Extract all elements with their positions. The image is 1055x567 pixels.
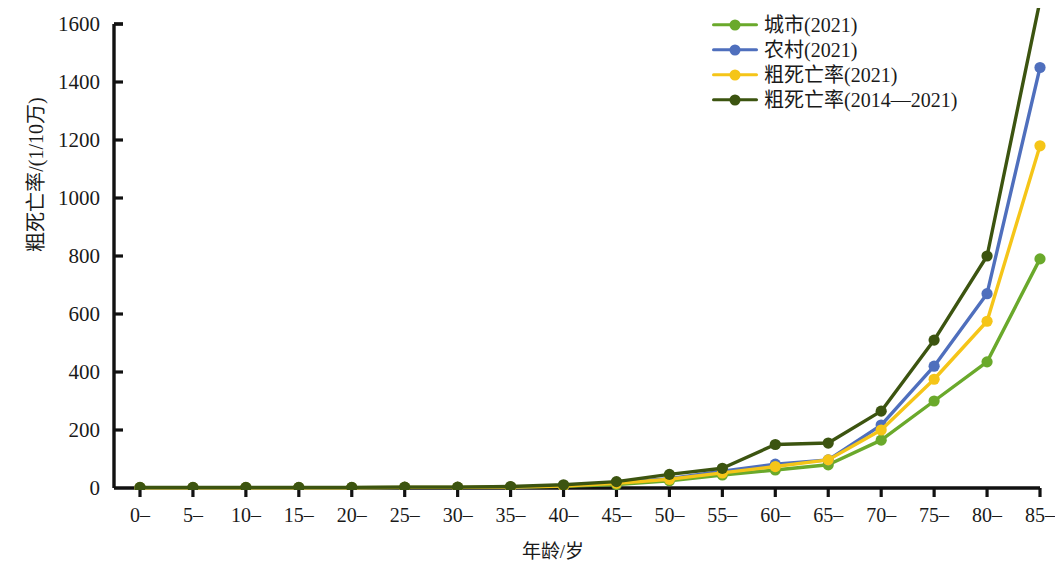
series-line <box>140 146 1040 488</box>
data-point-marker <box>876 424 887 435</box>
legend-item-label: 粗死亡率(2021) <box>764 65 897 85</box>
data-point-marker <box>929 395 940 406</box>
legend-item-label: 城市(2021) <box>764 15 857 35</box>
legend-item-label: 农村(2021) <box>764 40 857 60</box>
data-point-marker <box>770 439 781 450</box>
data-point-marker <box>929 374 940 385</box>
chart-legend: 城市(2021)农村(2021)粗死亡率(2021)粗死亡率(2014—2021… <box>712 12 957 112</box>
data-point-marker <box>664 469 675 480</box>
data-point-marker <box>981 250 992 261</box>
legend-swatch-icon <box>712 43 758 57</box>
series-line <box>140 259 1040 488</box>
data-point-marker <box>823 437 834 448</box>
data-point-marker <box>876 406 887 417</box>
legend-item[interactable]: 粗死亡率(2021) <box>712 62 957 87</box>
data-point-marker <box>770 461 781 472</box>
data-point-marker <box>1034 140 1045 151</box>
series-line <box>140 68 1040 488</box>
data-point-marker <box>611 476 622 487</box>
data-point-marker <box>558 479 569 490</box>
legend-item[interactable]: 城市(2021) <box>712 12 957 37</box>
data-point-marker <box>876 435 887 446</box>
data-point-marker <box>981 356 992 367</box>
legend-swatch-icon <box>712 93 758 107</box>
legend-item[interactable]: 粗死亡率(2014—2021) <box>712 87 957 112</box>
data-point-marker <box>717 463 728 474</box>
data-point-marker <box>981 316 992 327</box>
legend-swatch-icon <box>712 18 758 32</box>
data-point-marker <box>1034 62 1045 73</box>
data-point-marker <box>929 361 940 372</box>
data-point-marker <box>929 335 940 346</box>
legend-swatch-icon <box>712 68 758 82</box>
legend-item[interactable]: 农村(2021) <box>712 37 957 62</box>
series-3 <box>134 140 1045 493</box>
data-point-marker <box>1034 253 1045 264</box>
data-point-marker <box>981 288 992 299</box>
legend-item-label: 粗死亡率(2014—2021) <box>764 90 957 110</box>
series-2 <box>134 62 1045 493</box>
data-point-marker <box>823 454 834 465</box>
